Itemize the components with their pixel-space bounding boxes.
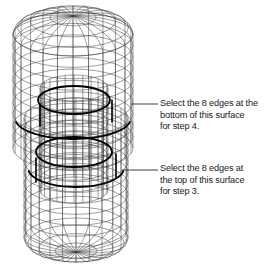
annotation-bottom-surface: Select the 8 edges at the bottom of this… — [160, 98, 272, 133]
lower-meridian — [76, 132, 113, 258]
upper-meridian — [73, 13, 125, 137]
wireframe-cylinder-figure — [0, 0, 272, 268]
annotation-top-surface: Select the 8 edges at the top of this su… — [160, 163, 272, 198]
upper-meridian — [73, 16, 103, 167]
lower-meridian — [76, 123, 126, 253]
